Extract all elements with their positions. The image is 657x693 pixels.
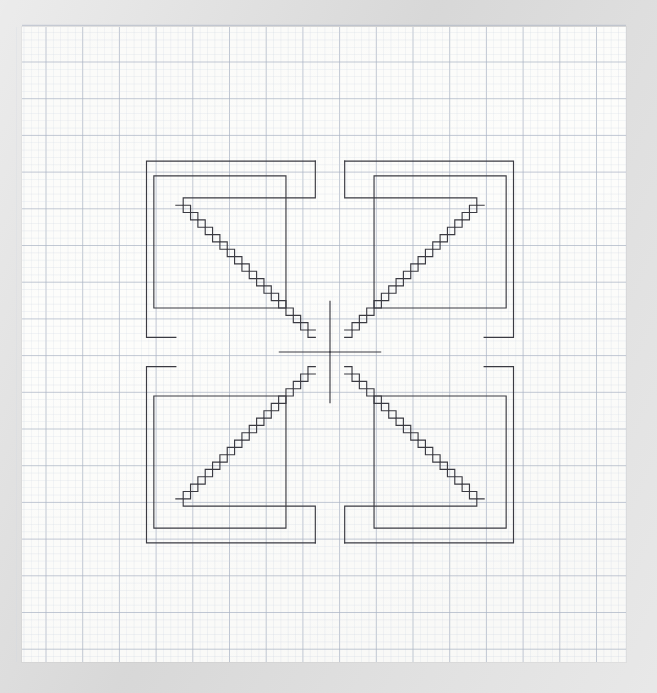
arm-shallow-br (345, 367, 484, 499)
arm-steep-br (345, 374, 477, 543)
figure-strokes (147, 161, 514, 543)
drawing-scene (0, 0, 657, 693)
graph-paper-sheet (22, 27, 626, 662)
arm-shallow-tr (345, 205, 484, 337)
arm-shallow-tl (176, 205, 315, 337)
arm-shallow-bl (176, 367, 315, 499)
arm-steep-tl (183, 161, 315, 330)
arm-steep-tr (345, 161, 477, 330)
geometric-figure (22, 27, 626, 662)
arm-steep-bl (183, 374, 315, 543)
